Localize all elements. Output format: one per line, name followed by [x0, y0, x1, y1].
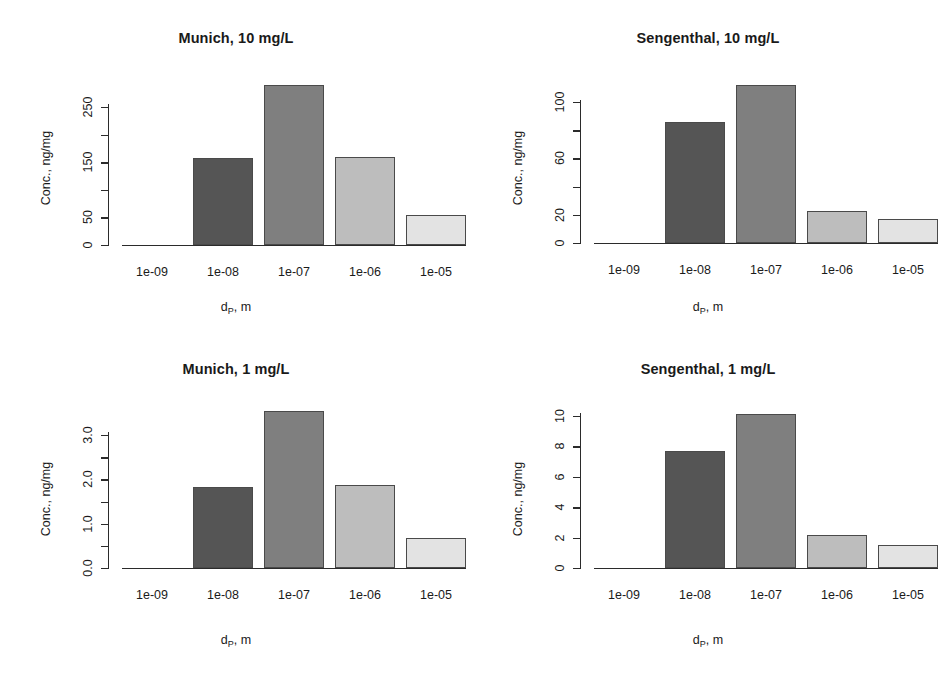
- x-axis-tick-label: 1e-09: [594, 588, 654, 602]
- y-axis-line: [108, 432, 109, 569]
- y-axis-tick-major: [573, 568, 580, 569]
- y-axis-tick-major: [101, 162, 108, 163]
- y-axis-tick-label: 100: [553, 92, 567, 113]
- x-axis-tick-label: 1e-06: [807, 588, 867, 602]
- y-axis-tick-minor: [101, 457, 108, 458]
- plot-area: 0.01.02.03.01e-091e-081e-071e-061e-05: [0, 339, 472, 679]
- y-axis-tick-label: 3.0: [81, 426, 95, 443]
- y-axis-tick-label: 2.0: [81, 471, 95, 488]
- x-axis-tick-label: 1e-06: [807, 263, 867, 277]
- bar: [665, 451, 725, 568]
- y-axis-line: [580, 413, 581, 569]
- y-axis-tick-major: [573, 102, 580, 103]
- plot-area: 0501502501e-091e-081e-071e-061e-05: [0, 0, 472, 340]
- y-axis-tick-major: [101, 217, 108, 218]
- y-axis-line: [108, 104, 109, 246]
- x-axis-label: dP, m: [0, 633, 472, 647]
- x-axis-tick-label: 1e-05: [406, 588, 466, 602]
- y-axis-tick-major: [101, 435, 108, 436]
- bar: [335, 157, 395, 245]
- x-axis-tick-label: 1e-05: [406, 265, 466, 279]
- y-axis-tick-major: [573, 158, 580, 159]
- y-axis-tick-major: [101, 479, 108, 480]
- x-axis-tick-label: 1e-06: [335, 265, 395, 279]
- x-axis-label: dP, m: [472, 300, 944, 314]
- x-axis-tick-label: 1e-09: [122, 265, 182, 279]
- y-axis-tick-label: 0: [553, 565, 567, 572]
- x-axis-tick-label: 1e-08: [193, 265, 253, 279]
- y-axis-tick-major: [573, 215, 580, 216]
- y-axis-tick-major: [573, 507, 580, 508]
- chart-panel-munich-1: Munich, 1 mg/L Conc., ng/mg 0.01.02.03.0…: [0, 339, 472, 679]
- y-axis-line: [580, 100, 581, 244]
- y-axis-tick-minor: [573, 187, 580, 188]
- y-axis-tick-minor: [573, 130, 580, 131]
- y-axis-tick-label: 10: [553, 409, 567, 423]
- chart-panel-sengenthal-1: Sengenthal, 1 mg/L Conc., ng/mg 02468101…: [472, 339, 944, 679]
- figure-panel-grid: Munich, 10 mg/L Conc., ng/mg 0501502501e…: [0, 0, 944, 679]
- y-axis-tick-label: 8: [553, 443, 567, 450]
- y-axis-tick-major: [101, 524, 108, 525]
- x-axis-tick-label: 1e-09: [122, 588, 182, 602]
- y-axis-tick-major: [101, 568, 108, 569]
- x-axis-baseline: [122, 568, 466, 569]
- x-axis-tick-label: 1e-08: [665, 263, 725, 277]
- bar: [264, 411, 324, 568]
- plot-area: 020601001e-091e-081e-071e-061e-05: [472, 0, 944, 340]
- y-axis-tick-major: [573, 416, 580, 417]
- y-axis-tick-label: 6: [553, 473, 567, 480]
- x-axis-tick-label: 1e-07: [264, 588, 324, 602]
- y-axis-tick-minor: [101, 546, 108, 547]
- y-axis-tick-major: [101, 107, 108, 108]
- bar: [807, 211, 867, 243]
- chart-panel-sengenthal-10: Sengenthal, 10 mg/L Conc., ng/mg 0206010…: [472, 0, 944, 340]
- bar: [193, 487, 253, 568]
- bar: [335, 485, 395, 568]
- x-axis-tick-label: 1e-05: [878, 588, 938, 602]
- x-axis-tick-label: 1e-07: [264, 265, 324, 279]
- bar: [264, 85, 324, 245]
- y-axis-tick-label: 60: [553, 151, 567, 165]
- x-axis-tick-label: 1e-06: [335, 588, 395, 602]
- y-axis-tick-minor: [101, 502, 108, 503]
- y-axis-tick-label: 0: [81, 242, 95, 249]
- y-axis-tick-major: [101, 245, 108, 246]
- x-axis-tick-label: 1e-07: [736, 588, 796, 602]
- bar: [736, 414, 796, 568]
- y-axis-tick-major: [573, 477, 580, 478]
- bar: [736, 85, 796, 243]
- x-axis-tick-label: 1e-07: [736, 263, 796, 277]
- y-axis-tick-label: 4: [553, 504, 567, 511]
- x-axis-baseline: [594, 243, 938, 244]
- x-axis-tick-label: 1e-05: [878, 263, 938, 277]
- x-axis-label: dP, m: [472, 633, 944, 647]
- x-axis-baseline: [122, 245, 466, 246]
- y-axis-tick-label: 250: [81, 97, 95, 118]
- bar: [878, 545, 938, 568]
- y-axis-tick-minor: [101, 190, 108, 191]
- y-axis-tick-label: 150: [81, 152, 95, 173]
- y-axis-tick-minor: [101, 135, 108, 136]
- chart-panel-munich-10: Munich, 10 mg/L Conc., ng/mg 0501502501e…: [0, 0, 472, 340]
- y-axis-tick-label: 0.0: [81, 559, 95, 576]
- x-axis-tick-label: 1e-09: [594, 263, 654, 277]
- bar: [665, 122, 725, 243]
- y-axis-tick-major: [573, 243, 580, 244]
- x-axis-tick-label: 1e-08: [193, 588, 253, 602]
- y-axis-tick-label: 20: [553, 208, 567, 222]
- y-axis-tick-label: 0: [553, 240, 567, 247]
- x-axis-label: dP, m: [0, 300, 472, 314]
- y-axis-tick-label: 50: [81, 210, 95, 224]
- plot-area: 02468101e-091e-081e-071e-061e-05: [472, 339, 944, 679]
- bar: [406, 215, 466, 245]
- bar: [807, 535, 867, 568]
- y-axis-tick-major: [573, 446, 580, 447]
- x-axis-tick-label: 1e-08: [665, 588, 725, 602]
- bar: [878, 219, 938, 243]
- bar: [193, 158, 253, 245]
- x-axis-baseline: [594, 568, 938, 569]
- y-axis-tick-major: [573, 538, 580, 539]
- y-axis-tick-label: 1.0: [81, 515, 95, 532]
- bar: [406, 538, 466, 568]
- y-axis-tick-label: 2: [553, 534, 567, 541]
